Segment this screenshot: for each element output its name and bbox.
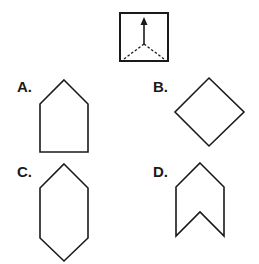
option-a-label: A. bbox=[17, 78, 32, 95]
option-a-shape[interactable] bbox=[40, 80, 88, 152]
option-d-label: D. bbox=[153, 163, 168, 180]
dashed-fold-left bbox=[124, 44, 144, 59]
figure-canvas bbox=[0, 0, 259, 264]
option-d-shape[interactable] bbox=[176, 163, 224, 236]
option-c-shape[interactable] bbox=[40, 164, 88, 261]
dashed-fold-right bbox=[144, 44, 164, 59]
option-b-label: B. bbox=[153, 78, 168, 95]
option-c-label: C. bbox=[17, 163, 32, 180]
option-b-shape[interactable] bbox=[175, 78, 244, 146]
arrow-up-icon bbox=[141, 17, 148, 25]
question-figure bbox=[120, 13, 168, 61]
